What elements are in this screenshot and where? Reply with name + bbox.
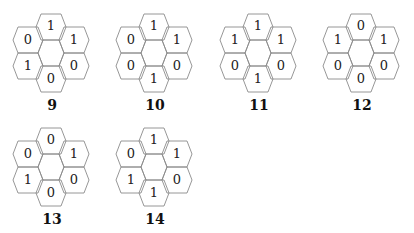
hex-lower-left-value: 0 (118, 59, 144, 73)
hex-bottom-value: 0 (38, 186, 64, 200)
hex-upper-left-value: 1 (325, 33, 351, 47)
hex-ring-figure-11: 1 1 1 0 0 1 11 (214, 8, 304, 118)
hex-upper-left-value: 0 (15, 147, 41, 161)
hex-upper-right-value: 1 (61, 147, 87, 161)
hex-upper-left-value: 0 (15, 33, 41, 47)
hex-lower-right-value: 0 (164, 173, 190, 187)
hex-bottom-value: 1 (141, 186, 167, 200)
hex-lower-left-value: 0 (325, 59, 351, 73)
hex-upper-right-value: 1 (268, 33, 294, 47)
hex-bottom-value: 0 (38, 72, 64, 86)
hex-upper-left-value: 1 (222, 33, 248, 47)
figure-number: 13 (7, 211, 97, 227)
hex-bottom-value: 1 (141, 72, 167, 86)
figure-number: 14 (110, 211, 200, 227)
hex-bottom-value: 1 (245, 72, 271, 86)
figure-number: 11 (214, 97, 304, 113)
hex-top-value: 0 (38, 133, 64, 147)
hex-top-value: 0 (348, 19, 374, 33)
hex-upper-left-value: 0 (118, 147, 144, 161)
hex-top-value: 1 (245, 19, 271, 33)
hex-upper-right-value: 1 (61, 33, 87, 47)
hex-upper-left-value: 0 (118, 33, 144, 47)
hex-lower-right-value: 0 (61, 173, 87, 187)
figure-number: 12 (317, 97, 407, 113)
hex-bottom-value: 0 (348, 72, 374, 86)
hex-lower-right-value: 0 (61, 59, 87, 73)
hex-ring-figure-12: 0 1 1 0 0 0 12 (317, 8, 407, 118)
hex-top-value: 1 (38, 19, 64, 33)
hex-lower-left-value: 0 (222, 59, 248, 73)
figure-number: 10 (110, 97, 200, 113)
hex-ring-figure-13: 0 0 1 1 0 0 13 (7, 122, 97, 232)
hex-ring-figure-14: 1 0 1 1 0 1 14 (110, 122, 200, 232)
hex-top-value: 1 (141, 19, 167, 33)
hex-upper-right-value: 1 (371, 33, 397, 47)
hex-ring-figure-9: 1 0 1 1 0 0 9 (7, 8, 97, 118)
hex-lower-left-value: 1 (15, 59, 41, 73)
hex-lower-left-value: 1 (118, 173, 144, 187)
figure-number: 9 (7, 97, 97, 113)
hex-lower-left-value: 1 (15, 173, 41, 187)
hex-lower-right-value: 0 (371, 59, 397, 73)
hex-top-value: 1 (141, 133, 167, 147)
hex-lower-right-value: 0 (164, 59, 190, 73)
hex-upper-right-value: 1 (164, 147, 190, 161)
hex-lower-right-value: 0 (268, 59, 294, 73)
hex-upper-right-value: 1 (164, 33, 190, 47)
hex-ring-figure-10: 1 0 1 0 0 1 10 (110, 8, 200, 118)
